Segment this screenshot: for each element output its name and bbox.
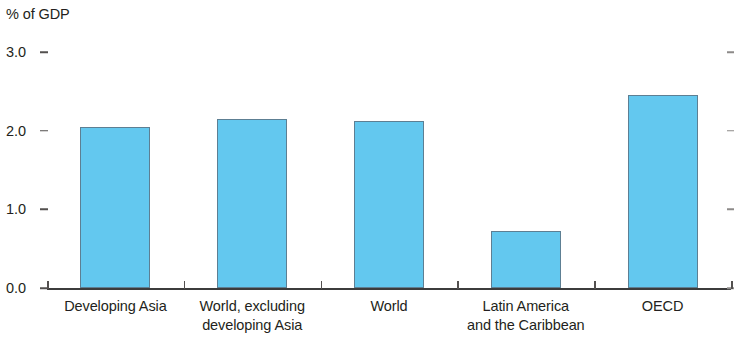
x-tick-mark [184,281,186,289]
bar [80,127,150,288]
category-label-line: Latin America [457,297,594,316]
x-tick-mark [457,281,459,289]
category-label: World, excludingdeveloping Asia [184,297,321,335]
category-label: Developing Asia [47,297,184,316]
y-tick-label: 2.0 [6,123,40,139]
x-tick-mark [594,281,596,289]
y-tick-label: 1.0 [6,201,40,217]
y-tick-mark [40,51,48,53]
x-tick-mark [731,281,733,289]
bar-chart-figure: % of GDP 0.01.02.03.0 Developing AsiaWor… [0,0,735,343]
y-tick-label: 0.0 [6,280,40,296]
category-label-line: World, excluding [184,297,321,316]
category-label-line: World [321,297,458,316]
y-tick-mark-right [727,209,734,211]
y-tick-mark-right [727,51,734,53]
category-label-line: Developing Asia [47,297,184,316]
x-axis-line [47,288,731,290]
y-tick-mark [40,209,48,211]
category-label: World [321,297,458,316]
y-tick-label: 3.0 [6,44,40,60]
category-label-line: developing Asia [184,316,321,335]
category-label-line: and the Caribbean [457,316,594,335]
category-label: Latin Americaand the Caribbean [457,297,594,335]
x-tick-mark [321,281,323,289]
category-label-line: OECD [594,297,731,316]
y-axis-unit-label: % of GDP [6,6,70,22]
bar [354,121,424,288]
bar [217,119,287,288]
category-label: OECD [594,297,731,316]
y-tick-mark [40,130,48,132]
y-tick-mark-right [727,130,734,132]
bar [491,231,561,288]
x-tick-mark [47,281,49,289]
bar [628,95,698,288]
